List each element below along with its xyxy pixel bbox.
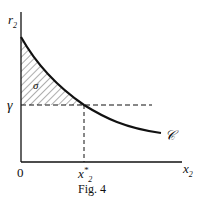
curve-label: 𝒞: [165, 129, 175, 143]
x-axis-label: x2: [183, 162, 193, 179]
hatched-region: [21, 37, 84, 105]
y-axis-label: r2: [8, 13, 17, 30]
gamma-label: γ: [7, 99, 13, 113]
figure-caption: Fig. 4: [78, 183, 106, 195]
region-sigma-label: σ: [33, 80, 38, 91]
origin-label: 0: [17, 166, 24, 179]
figure-canvas: [0, 0, 201, 200]
